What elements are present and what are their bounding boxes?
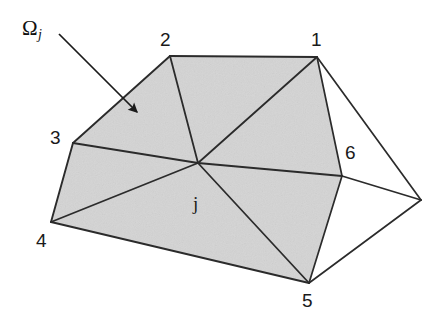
vertex-label-1: 1: [311, 30, 322, 49]
vertex-label-6: 6: [345, 143, 356, 162]
omega-symbol: Ω: [22, 16, 38, 40]
shaded-support-region: [51, 56, 342, 283]
figure-canvas: Ωj j 123456: [0, 0, 439, 323]
vertex-label-4: 4: [36, 231, 47, 250]
vertex-label-5: 5: [302, 291, 313, 310]
edge-6-7: [342, 176, 421, 200]
vertex-label-3: 3: [50, 128, 61, 147]
mesh-diagram-svg: [0, 0, 439, 323]
omega-subscript: j: [38, 27, 42, 42]
edge-2-1: [170, 56, 317, 57]
omega-j-region-label: Ωj: [22, 18, 42, 42]
omega-pointer-arrow: [59, 34, 137, 112]
vertex-label-2: 2: [160, 30, 171, 49]
node-label-j: j: [193, 194, 198, 213]
